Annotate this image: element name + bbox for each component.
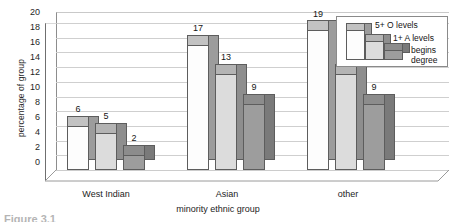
bar-side-face: [145, 145, 155, 160]
y-tick-10: 10: [18, 83, 40, 92]
y-tick-8: 8: [18, 98, 40, 107]
bar-other-1plus-a-levels: [335, 74, 357, 170]
category-label-west-indian: West Indian: [51, 189, 161, 199]
bar-front-face: [243, 104, 265, 170]
bar-top-face: [95, 123, 117, 133]
bar-west-indian-5plus-o-levels: [67, 126, 89, 170]
y-tick-6: 6: [18, 113, 40, 122]
value-label-other-0: 19: [306, 10, 330, 19]
bar-top-face: [307, 20, 329, 30]
value-label-west-indian-1: 5: [94, 112, 118, 121]
value-label-asian-0: 17: [186, 24, 210, 33]
y-tick-4: 4: [18, 128, 40, 137]
legend-label-1plus-a-levels: 1+ A levels: [393, 34, 434, 44]
bar-other-5plus-o-levels: [307, 30, 329, 170]
category-label-other: other: [293, 189, 403, 199]
bar-front-face: [215, 74, 237, 170]
bar-top-face: [243, 94, 265, 104]
legend-swatch-top: [346, 23, 365, 30]
y-tick-2: 2: [18, 143, 40, 152]
bar-side-face: [265, 94, 275, 160]
bar-asian-5plus-o-levels: [187, 45, 209, 170]
category-label-asian: Asian: [172, 189, 282, 199]
figure-caption: Figure 3.1: [4, 213, 56, 222]
bar-front-face: [95, 133, 117, 170]
value-label-asian-2: 9: [242, 83, 266, 92]
y-tick-20: 20: [18, 8, 40, 17]
gridline-14: [56, 67, 449, 68]
bar-top-face: [363, 94, 385, 104]
legend-swatch-5plus-o-levels: [346, 30, 365, 60]
y-tick-12: 12: [18, 68, 40, 77]
bar-front-face: [123, 155, 145, 170]
value-label-asian-1: 13: [214, 53, 238, 62]
bar-top-face: [215, 64, 237, 74]
bar-front-face: [67, 126, 89, 170]
bar-chart-figure: percentage of group 20 18 16 14 12 10 8 …: [0, 0, 463, 222]
bar-front-face: [335, 74, 357, 170]
bar-top-face: [123, 145, 145, 155]
bar-side-face: [385, 94, 395, 160]
bar-asian-1plus-a-levels: [215, 74, 237, 170]
bar-top-face: [187, 35, 209, 45]
y-tick-14: 14: [18, 53, 40, 62]
bar-asian-begins-degree: [243, 104, 265, 170]
chart-legend: 5+ O levels 1+ A levels begins degree: [336, 16, 448, 67]
y-tick-18: 18: [18, 23, 40, 32]
bar-west-indian-1plus-a-levels: [95, 133, 117, 170]
legend-label-degree: degree: [411, 56, 437, 66]
bar-front-face: [307, 30, 329, 170]
legend-swatch-begins-degree: [384, 50, 403, 60]
value-label-west-indian-0: 6: [66, 105, 90, 114]
value-label-other-2: 9: [362, 83, 386, 92]
y-tick-16: 16: [18, 38, 40, 47]
bar-other-begins-degree: [363, 104, 385, 170]
legend-swatch-face: [384, 50, 403, 60]
legend-swatch-top: [365, 34, 384, 41]
legend-label-5plus-o-levels: 5+ O levels: [375, 21, 418, 31]
legend-swatch-1plus-a-levels: [365, 41, 384, 60]
legend-swatch-top: [384, 43, 403, 50]
x-axis-title: minority ethnic group: [118, 204, 318, 214]
value-label-west-indian-2: 2: [122, 134, 146, 143]
bar-west-indian-begins-degree: [123, 155, 145, 170]
bar-front-face: [363, 104, 385, 170]
bar-front-face: [187, 45, 209, 170]
bar-top-face: [67, 116, 89, 126]
y-tick-0: 0: [18, 158, 40, 167]
axis-depth-edges: [45, 23, 57, 183]
legend-swatch-face: [365, 41, 384, 60]
legend-swatch-face: [346, 30, 365, 60]
legend-swatch-side: [403, 43, 410, 53]
